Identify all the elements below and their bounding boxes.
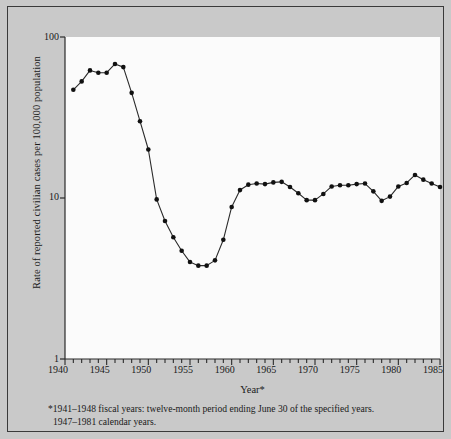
data-point-1941	[71, 87, 76, 92]
data-point-1975	[354, 182, 359, 187]
data-point-1982	[413, 173, 418, 178]
data-point-1960	[229, 205, 234, 210]
data-point-1956	[196, 263, 201, 268]
data-point-1959	[221, 238, 226, 243]
data-point-1946	[113, 62, 118, 67]
x-tick-label-1965: 1965	[246, 364, 286, 375]
data-point-1964	[263, 182, 268, 187]
x-tick-label-1950: 1950	[121, 364, 161, 375]
data-point-1968	[296, 191, 301, 196]
data-point-1951	[154, 197, 159, 202]
data-series-line	[73, 64, 440, 266]
footnote: *1941–1948 fiscal years: twelve-month pe…	[48, 403, 443, 428]
data-point-1966	[279, 180, 284, 185]
data-point-1945	[104, 70, 109, 75]
series-line	[73, 64, 440, 266]
data-point-1958	[213, 258, 218, 263]
data-point-markers	[71, 62, 442, 268]
data-point-1981	[404, 181, 409, 186]
x-tick-label-1945: 1945	[80, 364, 120, 375]
data-point-1948	[129, 91, 134, 96]
x-tick-label-1985: 1985	[413, 364, 451, 375]
data-point-1976	[363, 181, 368, 186]
data-point-1944	[96, 70, 101, 75]
data-point-1980	[396, 184, 401, 189]
data-point-1971	[321, 192, 326, 197]
data-point-1954	[179, 248, 184, 253]
data-point-1974	[346, 183, 351, 188]
data-point-1978	[379, 199, 384, 204]
x-tick-label-1940: 1940	[38, 364, 78, 375]
x-tick-label-1970: 1970	[288, 364, 328, 375]
x-tick-label-1975: 1975	[330, 364, 370, 375]
data-point-1979	[388, 194, 393, 199]
data-point-1969	[304, 198, 309, 203]
data-point-1949	[138, 119, 143, 124]
data-point-1984	[429, 181, 434, 186]
data-point-1965	[271, 180, 276, 185]
figure-frame: 100 10 1 Rate of reported civilian cases…	[7, 6, 444, 432]
data-point-1955	[188, 260, 193, 265]
data-point-1967	[288, 185, 293, 190]
x-tick-label-1960: 1960	[205, 364, 245, 375]
data-point-1953	[171, 235, 176, 240]
footnote-line-1: *1941–1948 fiscal years: twelve-month pe…	[48, 403, 443, 416]
x-tick-label-1955: 1955	[163, 364, 203, 375]
data-point-1983	[421, 177, 426, 182]
data-point-1962	[246, 182, 251, 187]
data-point-1942	[79, 79, 84, 84]
data-point-1977	[371, 189, 376, 194]
data-point-1973	[338, 183, 343, 188]
data-point-1950	[146, 147, 151, 152]
x-tick-label-1980: 1980	[371, 364, 411, 375]
data-point-1952	[163, 219, 168, 224]
data-point-1970	[313, 198, 318, 203]
footnote-line-2: 1947–1981 calendar years.	[48, 416, 443, 429]
data-point-1985	[438, 185, 443, 190]
data-point-1957	[204, 263, 209, 268]
data-point-1972	[329, 184, 334, 189]
figure-container: 100 10 1 Rate of reported civilian cases…	[0, 0, 451, 439]
data-point-1947	[121, 65, 126, 70]
data-point-1963	[254, 181, 259, 186]
x-axis-title: Year*	[65, 384, 440, 395]
data-point-1961	[238, 188, 243, 193]
data-point-1943	[88, 68, 93, 73]
